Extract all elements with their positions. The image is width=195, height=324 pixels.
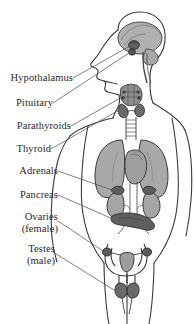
label-pituitary-text: Pituitary	[16, 97, 53, 108]
label-adrenals: Adrenals	[19, 165, 58, 177]
label-ovaries: Ovaries (female)	[22, 211, 58, 234]
hypothalamus-gland	[129, 41, 140, 50]
label-ovaries-text: Ovaries	[25, 211, 58, 222]
pituitary-gland	[129, 48, 136, 55]
label-testes-subtext: (male)	[27, 255, 55, 267]
adrenal-glands	[111, 186, 156, 194]
label-testes: Testes (male)	[27, 243, 55, 266]
label-ovaries-subtext: (female)	[22, 223, 58, 235]
label-parathyroids: Parathyroids	[17, 120, 71, 132]
label-pancreas: Pancreas	[20, 189, 58, 201]
leader-line-ovaries	[58, 221, 103, 251]
label-thyroid: Thyroid	[16, 143, 51, 155]
uterus	[109, 252, 145, 272]
label-thyroid-text: Thyroid	[16, 143, 51, 154]
thyroid-region	[118, 84, 144, 140]
endocrine-system-diagram: Hypothalamus Pituitary Parathyroids Thyr…	[0, 0, 195, 324]
label-adrenals-text: Adrenals	[19, 165, 58, 176]
anatomy-figure	[0, 0, 195, 324]
leader-line-pancreas	[58, 195, 113, 219]
label-hypothalamus: Hypothalamus	[11, 72, 73, 84]
brain	[118, 22, 162, 83]
label-parathyroids-text: Parathyroids	[17, 120, 71, 131]
heart	[125, 150, 147, 184]
label-pituitary: Pituitary	[16, 97, 53, 109]
label-pancreas-text: Pancreas	[20, 189, 58, 200]
label-testes-text: Testes	[28, 243, 55, 254]
leader-line-parathyroids	[71, 97, 122, 126]
label-hypothalamus-text: Hypothalamus	[11, 72, 73, 83]
leader-line-hypothalamus	[73, 46, 130, 78]
